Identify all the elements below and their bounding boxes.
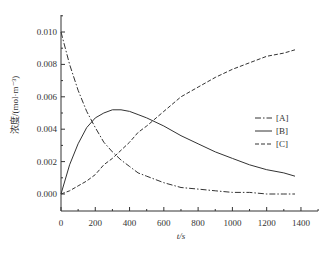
y-tick-label: 0.006: [37, 92, 58, 102]
x-axis-label: t/s: [177, 231, 186, 241]
x-tick-label: 600: [157, 218, 171, 228]
series-a-line: [61, 32, 295, 194]
x-tick-label: 0: [59, 218, 64, 228]
plot-area: [61, 32, 295, 194]
x-tick-label: 1400: [292, 218, 311, 228]
x-tick-label: 1200: [258, 218, 277, 228]
axes: 02004006008001000120014000.0000.0020.004…: [9, 15, 318, 241]
y-tick-label: 0.000: [37, 189, 58, 199]
y-axis-label: 浓度/(mol·m⁻³): [9, 76, 20, 134]
y-tick-label: 0.008: [37, 59, 58, 69]
x-tick-label: 400: [123, 218, 137, 228]
chart: 02004006008001000120014000.0000.0020.004…: [0, 0, 336, 253]
y-tick-label: 0.002: [37, 157, 57, 167]
y-tick-label: 0.004: [37, 124, 58, 134]
series-c-line: [61, 50, 295, 194]
legend: [A][B][C]: [255, 113, 289, 149]
legend-label: [A]: [276, 113, 289, 123]
series-b-line: [61, 110, 295, 194]
legend-label: [B]: [276, 126, 288, 136]
x-tick-label: 200: [89, 218, 103, 228]
x-tick-label: 1000: [223, 218, 242, 228]
x-tick-label: 800: [191, 218, 205, 228]
legend-label: [C]: [276, 139, 288, 149]
y-tick-label: 0.010: [37, 27, 58, 37]
